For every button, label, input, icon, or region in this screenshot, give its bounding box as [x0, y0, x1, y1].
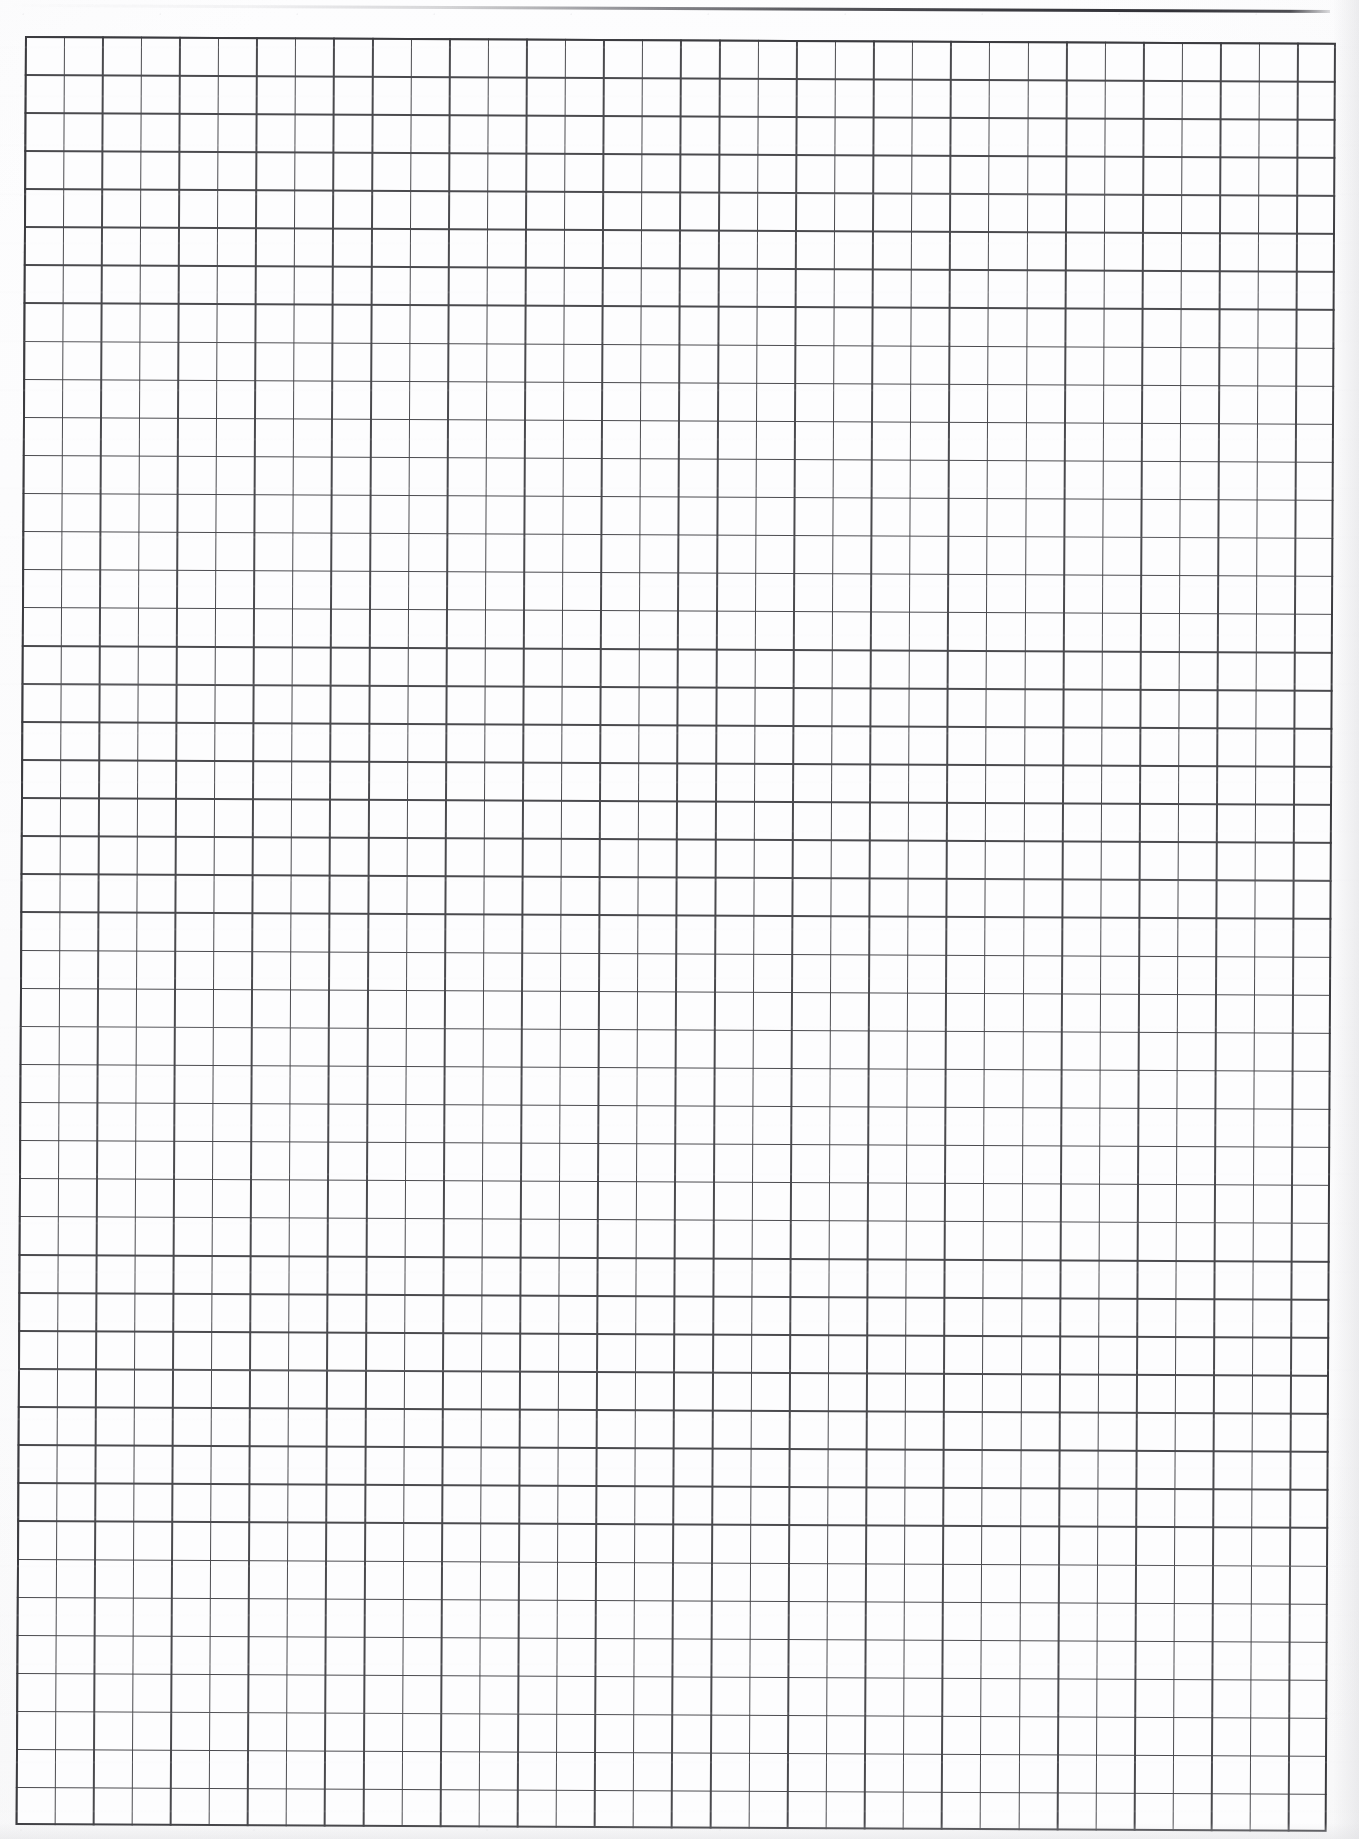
scan-edge-line-artifact	[8, 4, 1330, 13]
right-edge-shadow	[1333, 0, 1359, 1839]
graph-paper-grid	[16, 36, 1336, 1832]
scanned-page	[0, 0, 1359, 1839]
grid-surface	[16, 36, 1336, 1832]
